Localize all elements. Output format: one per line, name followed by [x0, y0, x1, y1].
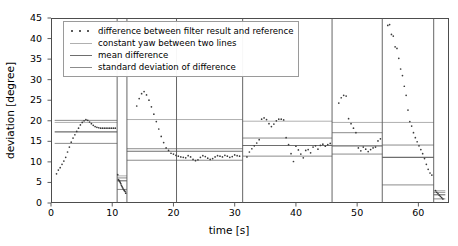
data-point [391, 34, 393, 36]
data-point [380, 138, 382, 140]
data-point [72, 137, 74, 139]
data-point [320, 145, 322, 147]
data-point [288, 144, 290, 146]
data-point [190, 156, 192, 158]
data-point [102, 127, 104, 129]
data-point [305, 150, 307, 152]
legend-item: mean difference [68, 49, 293, 61]
figure: deviation [degree] time [s] 051015202530… [0, 0, 458, 246]
data-point [285, 137, 287, 139]
legend-key-dots-icon [68, 26, 94, 36]
data-point [398, 57, 400, 59]
data-point [209, 159, 211, 161]
data-point [175, 154, 177, 156]
data-point [329, 143, 331, 145]
data-point [413, 132, 415, 134]
data-point [353, 127, 355, 129]
data-point [275, 120, 277, 122]
data-point [429, 172, 431, 174]
legend-dot-icon [71, 30, 73, 32]
data-point [153, 113, 155, 115]
data-point [350, 123, 352, 125]
data-point [315, 145, 317, 147]
data-point [405, 94, 407, 96]
data-point [427, 168, 429, 170]
data-point [103, 127, 105, 129]
data-point [136, 105, 138, 107]
data-point [411, 125, 413, 127]
data-point [160, 136, 162, 138]
legend-key-line-icon [68, 38, 94, 48]
data-point [74, 134, 76, 136]
data-point [76, 131, 78, 133]
data-point [168, 150, 170, 152]
legend-line-icon [70, 55, 92, 56]
data-point [441, 197, 443, 199]
data-point [170, 152, 172, 154]
data-point [94, 126, 96, 128]
data-point [98, 127, 100, 129]
data-point [239, 155, 241, 157]
data-point [214, 156, 216, 158]
data-point [377, 140, 379, 142]
data-point [192, 159, 194, 161]
data-point [143, 91, 145, 93]
legend-line-icon [70, 67, 92, 68]
data-point [105, 127, 107, 129]
data-point [197, 159, 199, 161]
data-point [300, 153, 302, 155]
data-point [91, 123, 93, 125]
data-point [322, 143, 324, 145]
data-point [312, 146, 314, 148]
data-point [425, 164, 427, 166]
data-point [422, 153, 424, 155]
data-point [367, 151, 369, 153]
data-point [217, 155, 219, 157]
data-point [345, 95, 347, 97]
data-point [436, 191, 438, 193]
data-point [85, 119, 87, 121]
data-point [392, 35, 394, 37]
data-point [212, 158, 214, 160]
data-point [158, 128, 160, 130]
data-point [65, 157, 67, 159]
legend-line-icon [70, 43, 92, 44]
data-point [295, 145, 297, 147]
data-point [253, 145, 255, 147]
data-point [204, 156, 206, 158]
data-point [418, 145, 420, 147]
data-point [195, 160, 197, 162]
data-point [180, 156, 182, 158]
data-point [109, 127, 111, 129]
data-point [372, 147, 374, 149]
data-point [236, 155, 238, 157]
data-point [67, 151, 69, 153]
data-point [246, 156, 248, 158]
data-point [440, 196, 442, 198]
data-point [125, 192, 127, 194]
data-point [416, 141, 418, 143]
data-point [138, 98, 140, 100]
data-point [249, 151, 251, 153]
data-point [146, 94, 148, 96]
data-point [338, 102, 340, 104]
data-point [290, 153, 292, 155]
data-point [185, 157, 187, 159]
data-point [92, 124, 94, 126]
data-point [113, 127, 115, 129]
data-point [394, 46, 396, 48]
data-point [387, 25, 389, 27]
data-point [293, 161, 295, 163]
data-point [389, 24, 391, 26]
data-point [89, 121, 91, 123]
data-point [155, 121, 157, 123]
data-point [268, 123, 270, 125]
data-point [409, 121, 411, 123]
data-point [83, 120, 85, 122]
data-point [61, 164, 63, 166]
data-point [348, 118, 350, 120]
data-point [224, 154, 226, 156]
data-point [298, 149, 300, 151]
data-point [219, 155, 221, 157]
data-point [280, 118, 282, 120]
